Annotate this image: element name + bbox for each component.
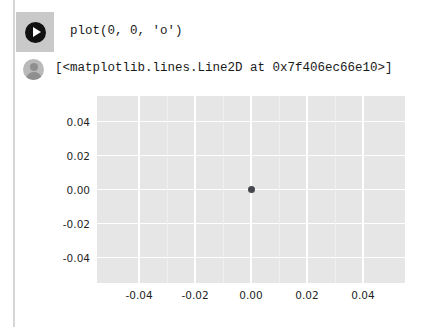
gridline-vertical-minor: [167, 96, 168, 283]
code-input-text[interactable]: plot(0, 0, 'o'): [70, 23, 183, 40]
play-icon: [25, 22, 46, 43]
gridline-vertical: [194, 96, 196, 283]
x-axis-tick-labels: -0.04-0.020.000.020.04: [97, 289, 405, 305]
avatar-body: [26, 72, 42, 80]
code-input-row: plot(0, 0, 'o'): [15, 12, 422, 52]
gridline-vertical-minor: [223, 96, 224, 283]
y-tick-label: 0.02: [67, 150, 90, 162]
cell-output-row: [<matplotlib.lines.Line2D at 0x7f406ec66…: [15, 56, 422, 86]
gridline-vertical-minor: [279, 96, 280, 283]
y-tick-label: 0.04: [67, 116, 90, 128]
cell-output-text: [<matplotlib.lines.Line2D at 0x7f406ec66…: [55, 60, 393, 77]
y-tick-label: 0.00: [67, 184, 90, 196]
notebook-cell: plot(0, 0, 'o') [<matplotlib.lines.Line2…: [0, 0, 422, 327]
y-tick-label: -0.04: [63, 252, 90, 264]
y-tick-label: -0.02: [63, 218, 90, 230]
matplotlib-figure: -0.04-0.020.000.020.04 -0.04-0.020.000.0…: [30, 88, 422, 320]
x-tick-label: -0.04: [125, 289, 152, 301]
y-axis-tick-labels: -0.04-0.020.000.020.04: [30, 96, 90, 283]
x-tick-label: 0.00: [239, 289, 262, 301]
avatar-head: [30, 63, 38, 71]
run-cell-button[interactable]: [16, 12, 54, 52]
user-avatar-icon: [23, 59, 44, 80]
gridline-vertical: [306, 96, 308, 283]
gridline-vertical: [138, 96, 140, 283]
x-tick-label: 0.02: [295, 289, 318, 301]
plot-axes-area: [97, 96, 405, 283]
data-point-marker: [248, 186, 255, 193]
gridline-vertical: [362, 96, 364, 283]
x-tick-label: -0.02: [181, 289, 208, 301]
x-tick-label: 0.04: [351, 289, 374, 301]
gridline-vertical-minor: [335, 96, 336, 283]
